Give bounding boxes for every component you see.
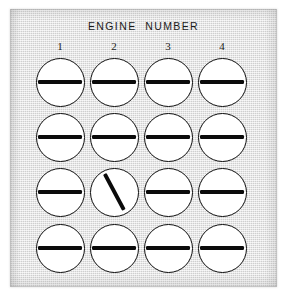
needle-icon: [38, 80, 82, 83]
dial-r3-c2[interactable]: [90, 168, 139, 217]
needle-icon: [92, 135, 136, 138]
dial-r2-c2[interactable]: [90, 113, 139, 162]
needle-icon: [38, 190, 82, 193]
dial-grid: [10, 9, 277, 287]
needle-icon: [200, 135, 244, 138]
dial-r4-c1[interactable]: [36, 224, 85, 273]
needle-icon: [38, 246, 82, 249]
needle-icon: [92, 246, 136, 249]
dial-r4-c2[interactable]: [90, 224, 139, 273]
dial-r3-c1[interactable]: [36, 168, 85, 217]
needle-icon: [146, 246, 190, 249]
dial-r3-c4[interactable]: [198, 168, 247, 217]
dial-r2-c3[interactable]: [144, 113, 193, 162]
needle-icon: [200, 190, 244, 193]
dial-r2-c1[interactable]: [36, 113, 85, 162]
needle-icon: [38, 135, 82, 138]
dial-r4-c4[interactable]: [198, 224, 247, 273]
needle-icon: [200, 246, 244, 249]
needle-icon: [200, 80, 244, 83]
needle-icon: [92, 80, 136, 83]
needle-icon: [146, 135, 190, 138]
dial-r1-c3[interactable]: [144, 58, 193, 107]
engine-number-panel-screenshot: ENGINE NUMBER 1234: [0, 0, 288, 300]
needle-icon: [146, 190, 190, 193]
dial-r1-c4[interactable]: [198, 58, 247, 107]
instrument-panel: ENGINE NUMBER 1234: [10, 9, 277, 287]
needle-icon: [146, 80, 190, 83]
dial-r3-c3[interactable]: [144, 168, 193, 217]
dial-r2-c4[interactable]: [198, 113, 247, 162]
needle-icon: [103, 173, 125, 211]
dial-r4-c3[interactable]: [144, 224, 193, 273]
dial-r1-c1[interactable]: [36, 58, 85, 107]
dial-r1-c2[interactable]: [90, 58, 139, 107]
